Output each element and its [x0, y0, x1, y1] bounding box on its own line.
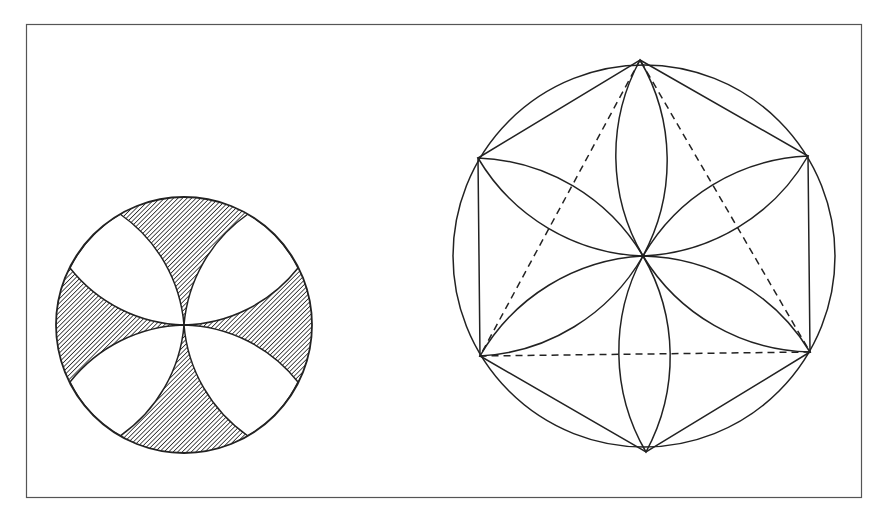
right-rosette [453, 60, 835, 452]
petal-lower-right [643, 256, 810, 352]
petals [478, 60, 810, 452]
left-rosette [0, 107, 312, 454]
petal-upper-left [478, 158, 643, 256]
diagram-canvas [0, 0, 884, 521]
petal-top [616, 60, 667, 256]
petal-upper-right [643, 156, 808, 256]
